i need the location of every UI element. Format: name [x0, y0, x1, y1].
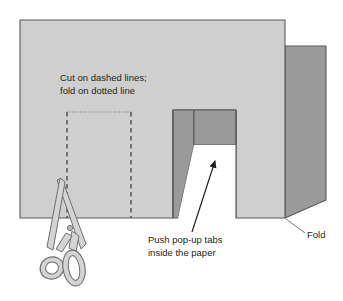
label-push-tabs-line2: inside the paper [148, 247, 216, 258]
popup-card-diagram: Cut on dashed lines; fold on dotted line… [0, 0, 343, 301]
paper-fold-flap [285, 46, 326, 218]
scissors-pivot-icon [67, 225, 72, 230]
popup-tab-right [194, 110, 236, 145]
leader-line-fold [286, 219, 305, 233]
label-cut-fold-line1: Cut on dashed lines; [60, 72, 147, 83]
diagram-canvas: Cut on dashed lines; fold on dotted line… [0, 0, 343, 301]
label-push-tabs-line1: Push pop-up tabs [148, 234, 223, 245]
label-cut-fold-line2: fold on dotted line [60, 85, 135, 96]
label-fold: Fold [307, 229, 325, 240]
